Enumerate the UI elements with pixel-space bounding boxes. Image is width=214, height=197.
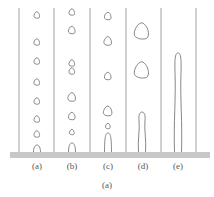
panel-label-e: (e): [163, 161, 193, 171]
attached-vapor-column: [69, 143, 76, 152]
attached-vapor-column: [34, 145, 41, 152]
vapor-bubble: [134, 23, 148, 39]
vapor-bubble: [34, 98, 40, 105]
heated-surface: [10, 152, 210, 158]
vapor-bubble: [68, 93, 76, 102]
vapor-bubble: [104, 72, 111, 80]
panel-label-b: (b): [57, 161, 87, 171]
panel-label-c: (c): [93, 161, 123, 171]
panel-label-d: (d): [128, 161, 158, 171]
attached-vapor-column: [138, 112, 145, 152]
vapor-bubble: [68, 26, 75, 34]
vapor-bubble: [69, 60, 75, 67]
vapor-bubble: [104, 37, 112, 46]
vapor-bubble: [34, 79, 40, 86]
boiling-regimes-figure: (a) (b) (c) (d) (e) (a): [0, 0, 214, 197]
attached-vapor-column: [105, 133, 112, 152]
vapor-bubble: [105, 123, 110, 128]
vapor-bubble: [68, 112, 75, 120]
vapor-bubble: [34, 39, 40, 46]
figure-caption: (a): [92, 180, 122, 190]
vapor-bubble: [34, 58, 40, 65]
vapor-bubble: [34, 12, 40, 19]
vapor-bubble: [104, 12, 111, 20]
vapor-bubble: [69, 9, 75, 16]
attached-vapor-column: [174, 53, 181, 152]
vapor-bubble: [103, 106, 112, 116]
vapor-bubble: [134, 62, 148, 78]
vapor-bubble: [69, 129, 74, 134]
vapor-bubble: [34, 116, 40, 123]
panel-label-a: (a): [22, 161, 52, 171]
vapor-bubble: [34, 131, 40, 138]
vapor-bubble: [69, 68, 75, 75]
